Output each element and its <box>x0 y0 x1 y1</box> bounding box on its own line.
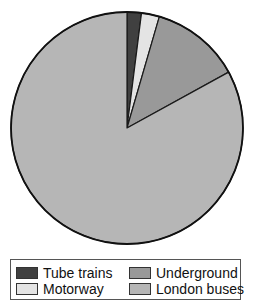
legend-swatch-underground <box>129 267 151 279</box>
legend-item-motorway: Motorway <box>16 282 104 296</box>
legend-swatch-tube-trains <box>16 267 38 279</box>
pie-chart <box>0 0 259 255</box>
legend-swatch-london-buses <box>129 283 151 295</box>
legend-swatch-motorway <box>16 283 38 295</box>
legend-item-tube-trains: Tube trains <box>16 266 113 280</box>
legend-label: Tube trains <box>43 266 113 280</box>
legend-label: Underground <box>156 266 238 280</box>
legend-item-london-buses: London buses <box>129 282 244 296</box>
legend: Tube trains Underground Motorway London … <box>10 259 241 300</box>
legend-item-underground: Underground <box>129 266 238 280</box>
legend-label: Motorway <box>43 282 104 296</box>
legend-label: London buses <box>156 282 244 296</box>
